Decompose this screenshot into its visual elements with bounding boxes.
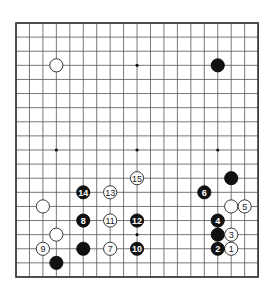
- white-stone-move-13: 13: [104, 186, 117, 199]
- black-stone-move-8: 8: [77, 214, 90, 227]
- black-stone-icon: [225, 172, 238, 185]
- black-stone: [225, 172, 238, 185]
- white-stone-icon: [50, 59, 63, 72]
- move-number: 5: [242, 202, 247, 212]
- move-number: 2: [215, 244, 220, 254]
- black-stone-move-2: 2: [211, 242, 224, 255]
- white-stone-move-3: 3: [225, 228, 238, 241]
- white-stone-icon: [50, 228, 63, 241]
- black-stone-icon: [211, 228, 224, 241]
- move-number: 9: [40, 244, 45, 254]
- black-stone-icon: [50, 256, 63, 269]
- star-point: [135, 148, 138, 151]
- white-stone: [36, 200, 49, 213]
- go-board[interactable]: 123456789101112131415: [0, 0, 275, 294]
- move-number: 15: [132, 174, 142, 184]
- star-point: [216, 148, 219, 151]
- black-stone: [211, 59, 224, 72]
- move-number: 7: [108, 244, 113, 254]
- black-stone-move-6: 6: [198, 186, 211, 199]
- star-point: [135, 64, 138, 67]
- move-number: 8: [81, 216, 86, 226]
- white-stone-move-11: 11: [104, 214, 117, 227]
- white-stone-move-9: 9: [36, 242, 49, 255]
- black-stone-icon: [211, 59, 224, 72]
- white-stone: [50, 228, 63, 241]
- move-number: 13: [105, 188, 115, 198]
- go-board-diagram[interactable]: 123456789101112131415: [0, 0, 275, 294]
- white-stone: [225, 200, 238, 213]
- move-number: 10: [132, 244, 142, 254]
- white-stone-move-5: 5: [238, 200, 251, 213]
- move-number: 12: [132, 216, 142, 226]
- star-point: [135, 233, 138, 236]
- black-stone-move-10: 10: [130, 242, 143, 255]
- move-number: 6: [202, 188, 207, 198]
- move-number: 14: [78, 188, 88, 198]
- star-point: [55, 148, 58, 151]
- move-number: 3: [229, 230, 234, 240]
- white-stone-icon: [36, 200, 49, 213]
- move-number: 11: [105, 216, 114, 226]
- black-stone-move-4: 4: [211, 214, 224, 227]
- move-number: 1: [229, 244, 234, 254]
- white-stone-icon: [225, 200, 238, 213]
- white-stone-move-15: 15: [130, 172, 143, 185]
- white-stone-move-7: 7: [104, 242, 117, 255]
- white-stone: [50, 59, 63, 72]
- black-stone-move-12: 12: [130, 214, 143, 227]
- black-stone-move-14: 14: [77, 186, 90, 199]
- black-stone: [50, 256, 63, 269]
- black-stone: [211, 228, 224, 241]
- black-stone-icon: [77, 242, 90, 255]
- move-number: 4: [215, 216, 220, 226]
- black-stone: [77, 242, 90, 255]
- white-stone-move-1: 1: [225, 242, 238, 255]
